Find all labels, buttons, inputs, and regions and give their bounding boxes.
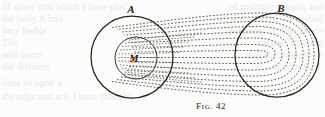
figure-container: of space into which I have plac the body… — [0, 0, 325, 117]
label-B: B — [276, 2, 284, 14]
flux-line — [131, 45, 275, 64]
core-flux-line — [120, 47, 184, 50]
flux-line — [121, 22, 303, 87]
label-M: M — [129, 53, 140, 64]
label-A: A — [126, 3, 134, 15]
caption-prefix-rest: IG. — [202, 103, 213, 111]
core-flux-line — [119, 53, 181, 55]
field-line-diagram: A M B — [0, 0, 325, 117]
caption-number: 42 — [213, 101, 226, 111]
circle-B-outline — [235, 13, 319, 97]
flux-line — [129, 38, 282, 70]
flux-line-group — [112, 13, 314, 95]
figure-caption: FIG.42 — [196, 101, 226, 111]
flux-line — [133, 51, 268, 58]
